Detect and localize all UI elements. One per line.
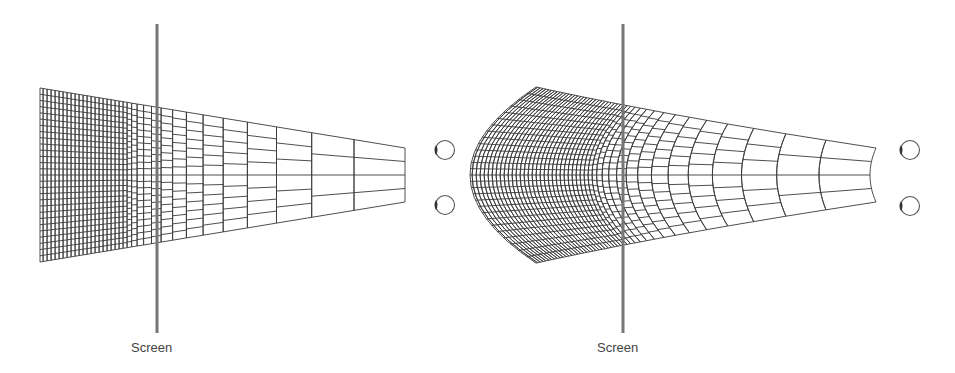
eye-icon — [900, 141, 920, 160]
eye-icon — [435, 196, 455, 215]
screens — [157, 24, 623, 333]
flat-grid-tunnel — [40, 88, 405, 262]
screen-label-left: Screen — [131, 340, 172, 355]
screen-label-right: Screen — [597, 340, 638, 355]
curved-grid-tunnel — [470, 87, 876, 263]
eye-icon — [435, 141, 455, 160]
perspective-diagram — [0, 0, 955, 373]
eye-icon — [900, 197, 920, 216]
